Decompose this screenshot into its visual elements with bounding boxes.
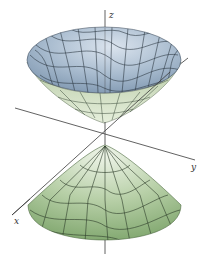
double-cone-diagram: z y x [0,0,212,258]
x-axis-lower [12,199,30,215]
y-axis-label: y [190,162,197,172]
z-axis-label: z [108,10,114,20]
x-axis-label: x [14,216,19,226]
